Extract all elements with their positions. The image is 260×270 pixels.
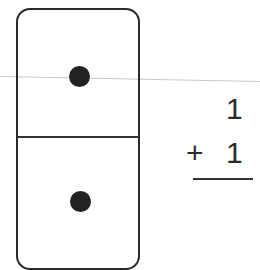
plus-sign: + bbox=[186, 138, 204, 168]
addend-bottom: 1 bbox=[226, 138, 243, 168]
dot-icon bbox=[70, 191, 91, 212]
answer-line bbox=[193, 178, 253, 180]
domino bbox=[16, 8, 140, 270]
dot-icon bbox=[69, 66, 90, 87]
addend-top: 1 bbox=[226, 94, 243, 124]
domino-divider bbox=[18, 136, 138, 138]
